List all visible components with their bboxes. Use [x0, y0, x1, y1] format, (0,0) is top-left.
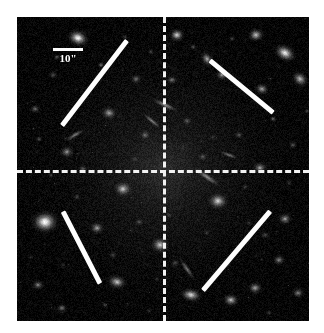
astronomical-figure: 10": [0, 0, 324, 333]
sky-image-panel: 10": [17, 17, 309, 321]
scale-bar-group: 10": [53, 48, 83, 64]
scale-bar-label: 10": [53, 52, 83, 64]
scale-bar-line: [53, 48, 83, 51]
